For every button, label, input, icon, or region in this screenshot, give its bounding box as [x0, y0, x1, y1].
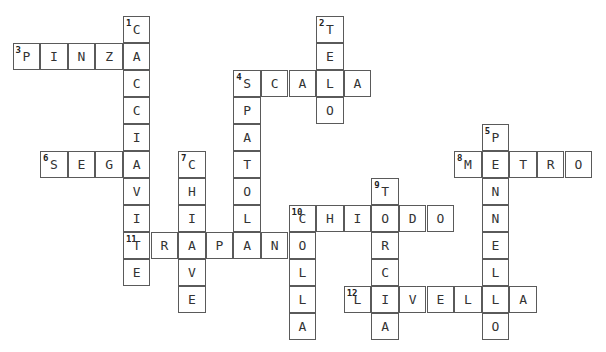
crossword-grid: 1CACCIAVI11TE2TELO3PINZ4SCAAPATOLA5PENNE… — [0, 0, 606, 352]
crossword-cell[interactable]: L — [316, 70, 344, 97]
crossword-cell[interactable]: E — [316, 43, 344, 70]
cell-letter: N — [262, 238, 288, 253]
crossword-cell[interactable]: O — [482, 313, 510, 340]
cell-letter: V — [400, 292, 426, 307]
crossword-cell[interactable]: D — [399, 205, 427, 232]
crossword-cell[interactable]: Z — [95, 43, 123, 70]
cell-letter: A — [510, 292, 536, 307]
cell-letter: O — [566, 157, 592, 172]
crossword-cell[interactable]: E — [427, 286, 455, 313]
crossword-cell[interactable]: V — [178, 259, 206, 286]
crossword-cell[interactable]: N — [482, 205, 510, 232]
crossword-cell[interactable]: E — [68, 151, 96, 178]
crossword-cell[interactable]: A — [178, 232, 206, 259]
crossword-cell[interactable]: L — [289, 259, 317, 286]
cell-letter: L — [290, 292, 316, 307]
crossword-cell[interactable]: G — [95, 151, 123, 178]
crossword-cell[interactable]: O — [233, 178, 261, 205]
crossword-cell[interactable]: H — [178, 178, 206, 205]
crossword-cell[interactable]: N — [261, 232, 289, 259]
crossword-cell[interactable]: H — [316, 205, 344, 232]
cell-letter: O — [428, 211, 454, 226]
crossword-cell[interactable]: 1C — [123, 16, 151, 43]
crossword-cell[interactable]: R — [151, 232, 179, 259]
crossword-cell[interactable]: V — [123, 178, 151, 205]
crossword-cell[interactable]: A — [233, 124, 261, 151]
cell-letter: C — [124, 22, 150, 37]
crossword-cell[interactable]: L — [233, 205, 261, 232]
crossword-cell[interactable]: I — [123, 205, 151, 232]
crossword-cell[interactable]: A — [123, 43, 151, 70]
cell-letter: P — [207, 238, 233, 253]
crossword-cell[interactable]: N — [482, 178, 510, 205]
crossword-cell[interactable]: A — [509, 286, 537, 313]
crossword-cell[interactable]: E — [178, 286, 206, 313]
cell-letter: E — [179, 292, 205, 307]
crossword-cell[interactable]: L — [289, 286, 317, 313]
crossword-cell[interactable]: C — [261, 70, 289, 97]
cell-letter: R — [372, 238, 398, 253]
crossword-cell[interactable]: 6S — [40, 151, 68, 178]
crossword-cell[interactable]: 8M — [454, 151, 482, 178]
cell-letter: T — [317, 22, 343, 37]
cell-letter: C — [124, 103, 150, 118]
crossword-cell[interactable]: A — [289, 70, 317, 97]
crossword-cell[interactable]: L — [482, 259, 510, 286]
cell-letter: H — [179, 184, 205, 199]
cell-letter: P — [483, 130, 509, 145]
cell-letter: L — [290, 265, 316, 280]
crossword-cell[interactable]: C — [123, 70, 151, 97]
crossword-cell[interactable]: P — [233, 97, 261, 124]
cell-letter: O — [483, 319, 509, 334]
crossword-cell[interactable]: 3P — [13, 43, 41, 70]
crossword-cell[interactable]: A — [344, 70, 372, 97]
crossword-cell[interactable]: P — [206, 232, 234, 259]
crossword-cell[interactable]: O — [371, 205, 399, 232]
cell-letter: A — [372, 319, 398, 334]
crossword-cell[interactable]: E — [123, 259, 151, 286]
cell-letter: P — [14, 49, 40, 64]
crossword-cell[interactable]: 7C — [178, 151, 206, 178]
cell-letter: L — [317, 76, 343, 91]
crossword-cell[interactable]: I — [178, 205, 206, 232]
crossword-cell[interactable]: I — [344, 205, 372, 232]
cell-letter: I — [179, 211, 205, 226]
crossword-cell[interactable]: A — [289, 313, 317, 340]
cell-letter: C — [124, 76, 150, 91]
crossword-cell[interactable]: V — [399, 286, 427, 313]
crossword-cell[interactable]: T — [233, 151, 261, 178]
crossword-cell[interactable]: L — [482, 286, 510, 313]
crossword-cell[interactable]: 5P — [482, 124, 510, 151]
cell-letter: N — [483, 211, 509, 226]
cell-letter: R — [538, 157, 564, 172]
crossword-cell[interactable]: 4S — [233, 70, 261, 97]
crossword-cell[interactable]: 9T — [371, 178, 399, 205]
crossword-cell[interactable]: I — [123, 124, 151, 151]
crossword-cell[interactable]: A — [123, 151, 151, 178]
crossword-cell[interactable]: R — [371, 232, 399, 259]
cell-letter: E — [124, 265, 150, 280]
crossword-cell[interactable]: N — [68, 43, 96, 70]
crossword-cell[interactable]: L — [454, 286, 482, 313]
crossword-cell[interactable]: E — [482, 232, 510, 259]
crossword-cell[interactable]: C — [371, 259, 399, 286]
crossword-cell[interactable]: 11T — [123, 232, 151, 259]
crossword-cell[interactable]: C — [123, 97, 151, 124]
crossword-cell[interactable]: O — [565, 151, 593, 178]
crossword-cell[interactable]: I — [371, 286, 399, 313]
cell-letter: E — [428, 292, 454, 307]
crossword-cell[interactable]: O — [427, 205, 455, 232]
crossword-cell[interactable]: A — [371, 313, 399, 340]
crossword-cell[interactable]: 10C — [289, 205, 317, 232]
cell-letter: S — [41, 157, 67, 172]
crossword-cell[interactable]: I — [40, 43, 68, 70]
crossword-cell[interactable]: 2T — [316, 16, 344, 43]
crossword-cell[interactable]: R — [537, 151, 565, 178]
crossword-cell[interactable]: O — [289, 232, 317, 259]
crossword-cell[interactable]: E — [482, 151, 510, 178]
crossword-cell[interactable]: T — [509, 151, 537, 178]
crossword-cell[interactable]: 12L — [344, 286, 372, 313]
cell-letter: L — [345, 292, 371, 307]
crossword-cell[interactable]: A — [233, 232, 261, 259]
crossword-cell[interactable]: O — [316, 97, 344, 124]
